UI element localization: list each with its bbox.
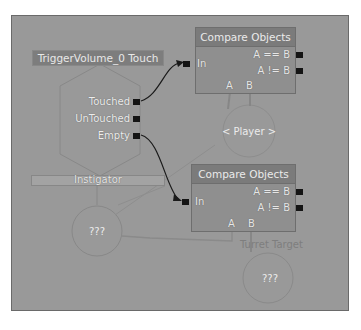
output-label-equal-2: A == B [240,186,290,198]
event-node-title[interactable]: TriggerVolume_0 Touch [32,50,164,66]
output-port-notequal-2[interactable] [296,205,303,211]
var-link-b-1[interactable]: B [246,80,253,92]
node-title: Compare Objects [196,28,295,47]
output-label-notequal-1: A != B [240,65,290,77]
variable-label-unknown-left: ??? [77,226,117,237]
input-label-in-2: In [195,196,204,208]
variable-caption-turret-target: Turret Target [240,239,320,250]
var-link-a-2[interactable]: A [228,218,235,230]
variable-label-player: < Player > [219,126,279,137]
wire-empty-to-compare2 [141,135,178,199]
output-label-touched: Touched [60,96,130,108]
var-link-b-2[interactable]: B [248,218,255,230]
variable-link-label-instigator: Instigator [31,174,165,186]
input-port-in-2[interactable] [182,199,189,205]
variable-label-unknown-right: ??? [250,273,290,284]
output-port-equal-1[interactable] [296,52,303,58]
wire-touched-to-compare1 [141,63,180,101]
output-port-empty[interactable] [133,133,140,139]
node-title: Compare Objects [192,165,295,184]
input-port-in-1[interactable] [183,61,190,67]
output-port-touched[interactable] [133,99,140,105]
input-label-in-1: In [197,58,206,70]
output-port-equal-2[interactable] [296,189,303,195]
output-label-equal-1: A == B [240,49,290,61]
output-port-untouched[interactable] [133,116,140,122]
var-link-a-1[interactable]: A [226,80,233,92]
output-label-notequal-2: A != B [240,202,290,214]
output-label-untouched: UnTouched [60,113,130,125]
compare-objects-node-2[interactable]: Compare Objects [191,164,296,232]
output-port-notequal-1[interactable] [296,68,303,74]
output-label-empty: Empty [60,130,130,142]
